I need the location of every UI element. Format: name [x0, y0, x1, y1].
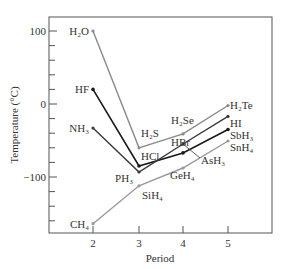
x-axis-title: Period — [146, 252, 175, 264]
x-tick-label-3: 3 — [136, 237, 142, 249]
label-h2te: H₂Te — [230, 99, 253, 111]
series-group14 — [91, 139, 229, 225]
y-tick-label-minus-100: −100 — [23, 171, 46, 183]
label-ph3: PH₃ — [115, 172, 133, 184]
label-geh4: GeH₄ — [170, 169, 195, 181]
y-tick-label-0: 0 — [41, 98, 47, 110]
x-tick-label-4: 4 — [180, 237, 186, 249]
label-hi: HI — [230, 117, 242, 129]
label-h2se: H₂Se — [171, 114, 194, 126]
x-tick-label-5: 5 — [225, 237, 231, 249]
label-h2s: H₂S — [141, 127, 159, 139]
label-hbr: HBr — [171, 136, 190, 148]
label-nh3: NH₃ — [69, 122, 89, 134]
x-axis: 2 3 4 5 — [90, 226, 231, 249]
label-hcl: HCl — [141, 150, 159, 162]
series-group16 — [91, 29, 229, 149]
y-axis-title: Temperature (°C) — [8, 86, 21, 164]
y-tick-label-100: 100 — [30, 25, 47, 37]
label-h2o: H₂O — [69, 25, 89, 37]
label-ch4: CH₄ — [70, 218, 89, 230]
label-snh4: SnH₄ — [230, 141, 254, 153]
label-sih4: SiH₄ — [142, 189, 163, 201]
y-axis: 100 0 −100 — [23, 25, 57, 221]
label-ash3: AsH₃ — [201, 154, 225, 166]
label-hf: HF — [75, 83, 89, 95]
x-tick-label-2: 2 — [90, 237, 96, 249]
label-sbh3: SbH₃ — [230, 129, 254, 141]
boiling-point-chart: 100 0 −100 Temperature (°C) 2 3 4 5 Peri… — [0, 0, 285, 269]
